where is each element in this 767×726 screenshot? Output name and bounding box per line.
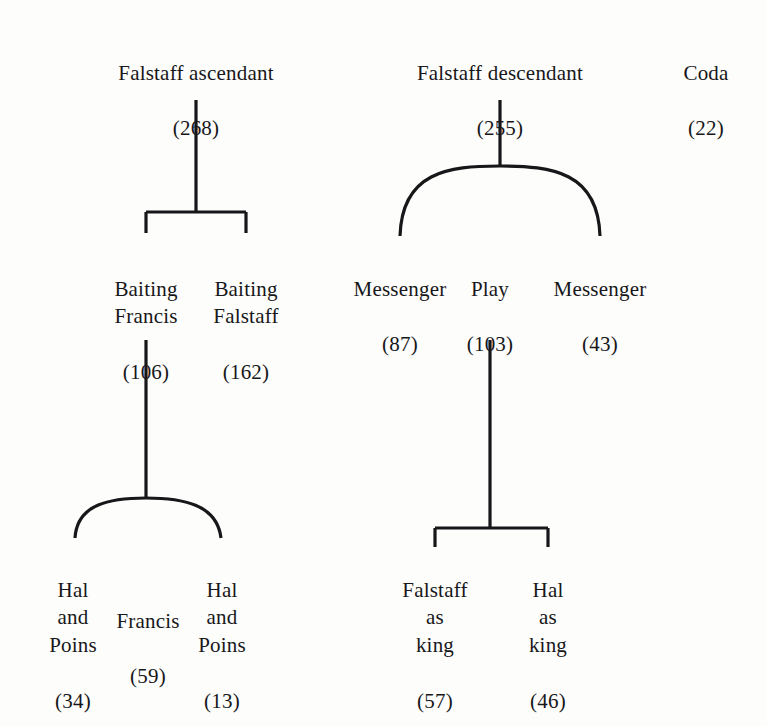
node-label: Messenger — [515, 276, 685, 304]
node-count: (162) — [161, 359, 331, 387]
node-label: Coda — [646, 60, 766, 88]
node-count: (13) — [162, 688, 282, 716]
node-label: Falstaff as king — [375, 577, 495, 660]
node-count: (46) — [488, 688, 608, 716]
node-label: Baiting Falstaff — [161, 276, 331, 331]
node-baiting-falstaff: Baiting Falstaff (162) — [161, 248, 331, 414]
node-label: Hal and Poins — [162, 577, 282, 660]
node-hal-and-poins-13: Hal and Poins (13) — [162, 549, 282, 726]
node-count: (255) — [350, 115, 650, 143]
node-messenger-43: Messenger (43) — [515, 248, 685, 387]
node-count: (43) — [515, 331, 685, 359]
structure-diagram: Falstaff ascendant (268) Falstaff descen… — [0, 0, 767, 726]
node-coda: Coda (22) — [646, 32, 766, 171]
node-count: (268) — [46, 115, 346, 143]
node-falstaff-ascendant: Falstaff ascendant (268) — [46, 32, 346, 171]
node-falstaff-as-king: Falstaff as king (57) — [375, 549, 495, 726]
node-hal-as-king: Hal as king (46) — [488, 549, 608, 726]
node-label: Falstaff ascendant — [46, 60, 346, 88]
node-label: Hal as king — [488, 577, 608, 660]
node-falstaff-descendant: Falstaff descendant (255) — [350, 32, 650, 171]
node-label: Falstaff descendant — [350, 60, 650, 88]
node-count: (57) — [375, 688, 495, 716]
node-count: (22) — [646, 115, 766, 143]
